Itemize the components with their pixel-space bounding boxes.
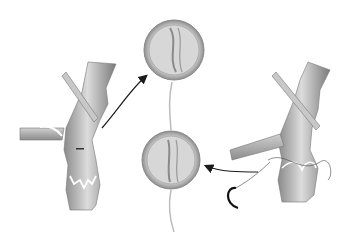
valve-cross-section-bottom <box>142 131 200 189</box>
arrow-left-to-top-circle <box>102 76 146 128</box>
valve-cross-section-top <box>144 20 204 80</box>
suture-needle-icon <box>228 188 238 208</box>
valve-repair-diagram <box>0 0 348 250</box>
suture-thread <box>236 162 270 188</box>
right-vein-illustration <box>230 62 331 202</box>
left-vein-illustration <box>20 62 116 210</box>
arrow-right-to-bottom-circle <box>206 166 258 172</box>
